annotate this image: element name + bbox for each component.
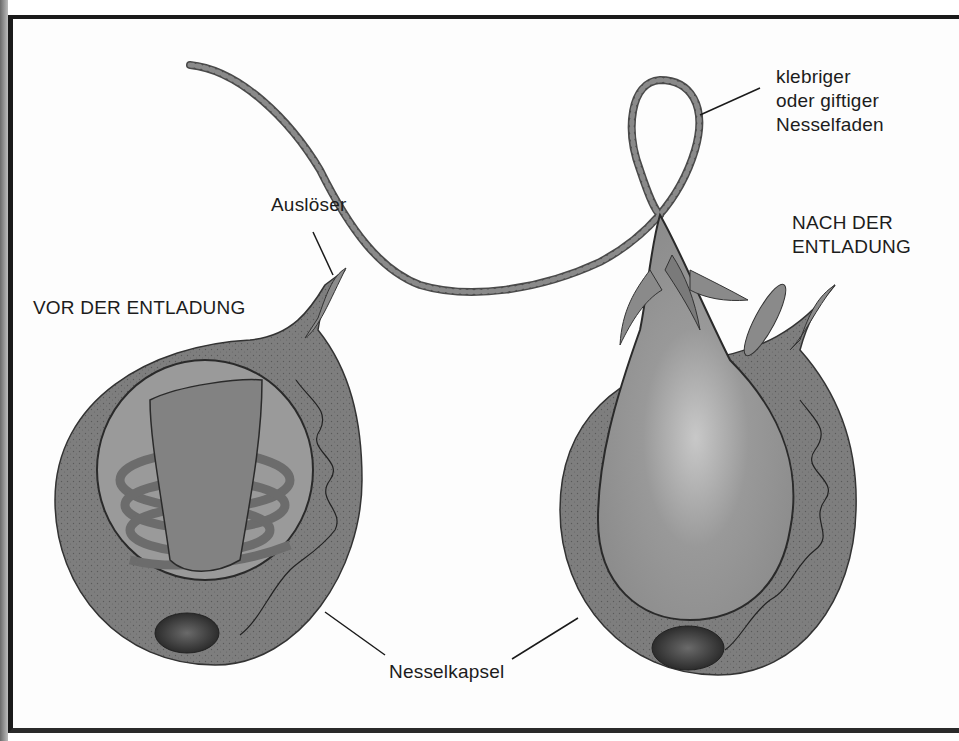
nucleus-before: [155, 613, 219, 653]
label-after-discharge-line2: ENTLADUNG: [792, 235, 911, 259]
label-thread-line2: oder giftiger: [776, 89, 879, 113]
label-before-discharge: VOR DER ENTLADUNG: [33, 296, 245, 320]
cell-before-discharge: [55, 268, 362, 665]
label-capsule: Nesselkapsel: [389, 660, 504, 684]
label-after-discharge-line1: NACH DER: [792, 211, 893, 235]
label-trigger: Auslöser: [271, 193, 347, 217]
cell-after-discharge: [560, 215, 856, 675]
nucleus-after: [652, 626, 724, 670]
label-thread-line1: klebriger: [776, 65, 851, 89]
label-thread-line3: Nesselfaden: [776, 113, 884, 137]
leader-trigger: [313, 232, 333, 275]
leader-thread: [700, 88, 760, 115]
leader-capsule-right: [512, 618, 578, 659]
nematocyst-thread: [190, 65, 699, 292]
leader-capsule-left: [325, 612, 385, 655]
